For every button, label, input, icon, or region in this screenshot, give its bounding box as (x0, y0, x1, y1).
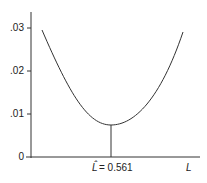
ytick-label: .01 (10, 108, 24, 119)
annotation-value: = 0.561 (99, 162, 133, 173)
chart: .03 .02 .01 0 L̂ = 0.561 L (0, 0, 207, 183)
curve (42, 30, 183, 125)
x-axis-label: L (186, 162, 192, 173)
ytick-label: .02 (10, 65, 24, 76)
ytick-label: 0 (18, 151, 24, 162)
annotation-symbol: L̂ (92, 160, 98, 173)
ytick-label: .03 (10, 22, 24, 33)
